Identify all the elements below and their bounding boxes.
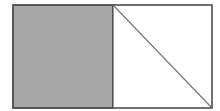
shaded-left-square — [13, 5, 113, 108]
diagram-canvas — [0, 0, 220, 111]
